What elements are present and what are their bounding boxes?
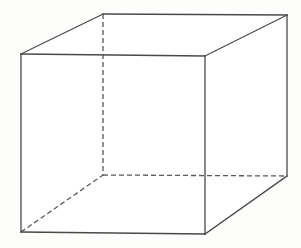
cube-face-front	[21, 54, 205, 234]
cube-figure	[0, 0, 301, 248]
figure-canvas	[0, 0, 301, 248]
